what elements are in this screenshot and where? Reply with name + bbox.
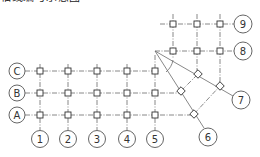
svg-text:6: 6 — [205, 132, 211, 143]
svg-text:8: 8 — [240, 46, 246, 57]
axis-bubble-B: B — [9, 85, 25, 101]
axis-bubble-4: 4 — [119, 131, 136, 148]
axis-bubble-A: A — [9, 107, 25, 123]
row-axis-lines — [25, 71, 194, 115]
svg-text:4: 4 — [124, 134, 130, 145]
axis-bubble-2: 2 — [60, 131, 77, 148]
axis-bubble-5: 5 — [147, 131, 164, 148]
svg-text:1: 1 — [37, 134, 43, 145]
svg-text:A: A — [14, 110, 21, 121]
axis-bubble-C: C — [9, 63, 25, 79]
axis-bubble-8: 8 — [234, 42, 252, 60]
axis-bubble-7: 7 — [232, 91, 250, 109]
svg-text:B: B — [14, 88, 21, 99]
svg-text:7: 7 — [238, 95, 244, 106]
axis-grid-diagram: C B A 1 2 3 4 5 9 8 7 6 — [0, 0, 260, 157]
svg-text:2: 2 — [65, 134, 71, 145]
svg-text:9: 9 — [240, 19, 246, 30]
axis-bubble-1: 1 — [32, 131, 49, 148]
svg-text:C: C — [14, 66, 21, 77]
axis-bubble-3: 3 — [89, 131, 106, 148]
svg-text:3: 3 — [94, 134, 100, 145]
svg-text:5: 5 — [152, 134, 158, 145]
column-markers — [37, 21, 224, 118]
axis-bubble-6: 6 — [199, 128, 217, 146]
axis-bubble-9: 9 — [234, 15, 252, 33]
